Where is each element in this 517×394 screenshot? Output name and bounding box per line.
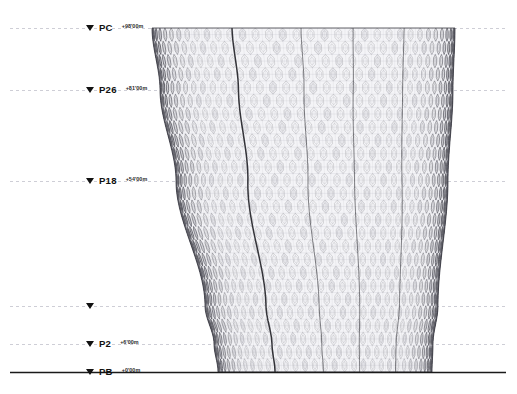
level-marker-PB: PB+0'00m	[86, 365, 140, 379]
level-name: P18	[99, 176, 117, 186]
level-triangle-icon	[86, 369, 94, 375]
level-name: P2	[99, 339, 111, 349]
level-elevation-value: +0'00m	[122, 368, 141, 373]
level-triangle-icon	[86, 87, 94, 93]
level-marker-P2: P2+6'00m	[86, 337, 139, 351]
level-marker-unlabeled-3	[86, 299, 99, 313]
level-triangle-icon	[86, 341, 94, 347]
level-marker-P26: P26+81'00m	[86, 83, 147, 97]
level-marker-P18: P18+54'00m	[86, 174, 147, 188]
level-elevation-value: +6'00m	[120, 340, 139, 345]
level-elevation-value: +54'00m	[126, 177, 148, 182]
level-triangle-icon	[86, 25, 94, 31]
level-name: PB	[99, 367, 113, 377]
level-triangle-icon	[86, 178, 94, 184]
level-name: P26	[99, 85, 117, 95]
elevation-vector-graphics	[0, 0, 517, 394]
level-triangle-icon	[86, 303, 94, 309]
level-elevation-value: +81'00m	[126, 86, 148, 91]
level-marker-PC: PC+98'00m	[86, 21, 143, 35]
tower-facade	[152, 28, 455, 372]
level-elevation-value: +98'00m	[122, 24, 144, 29]
elevation-drawing-canvas: PC+98'00mP26+81'00mP18+54'00mP2+6'00mPB+…	[0, 0, 517, 394]
level-name: PC	[99, 23, 113, 33]
